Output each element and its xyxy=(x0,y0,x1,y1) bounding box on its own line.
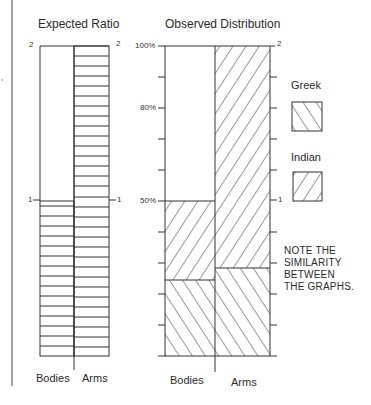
note-line-1: NOTE THE xyxy=(284,245,354,257)
observed-distribution-title: Observed Distribution xyxy=(165,17,280,31)
right-ticks xyxy=(270,77,277,325)
expected-right-1: 1 xyxy=(117,195,121,204)
observed-left-100: 100% xyxy=(135,41,155,50)
expected-left-2: 2 xyxy=(29,40,33,49)
expected-ratio-chart xyxy=(33,46,116,370)
note-line-3: BETWEEN xyxy=(284,269,354,281)
expected-ratio-title: Expected Ratio xyxy=(38,17,119,31)
bodies-segments xyxy=(40,206,74,346)
expected-x-label-arms: Arms xyxy=(82,372,108,384)
observed-left-50: 50% xyxy=(140,196,156,205)
diagram-graphics xyxy=(0,0,371,405)
observed-distribution-chart xyxy=(158,46,277,372)
greek-swatch xyxy=(292,102,322,131)
expected-left-1: 1 xyxy=(28,195,32,204)
expected-right-2: 2 xyxy=(116,39,120,48)
observed-right-1: 1 xyxy=(278,195,282,204)
observed-x-label-arms: Arms xyxy=(231,376,257,388)
legend-indian-label: Indian xyxy=(291,151,321,163)
note-line-2: SIMILARITY xyxy=(284,257,354,269)
similarity-note: NOTE THE SIMILARITY BETWEEN THE GRAPHS. xyxy=(284,245,354,293)
observed-left-80: 80% xyxy=(140,103,156,112)
observed-right-2: 2 xyxy=(277,39,281,48)
note-line-4: THE GRAPHS. xyxy=(284,281,354,293)
expected-x-label-bodies: Bodies xyxy=(36,372,70,384)
arms-segments xyxy=(74,56,109,347)
legend-greek-label: Greek xyxy=(291,79,321,91)
indian-swatch xyxy=(293,172,322,201)
stray-dot xyxy=(1,79,2,80)
observed-x-label-bodies: Bodies xyxy=(170,374,204,386)
